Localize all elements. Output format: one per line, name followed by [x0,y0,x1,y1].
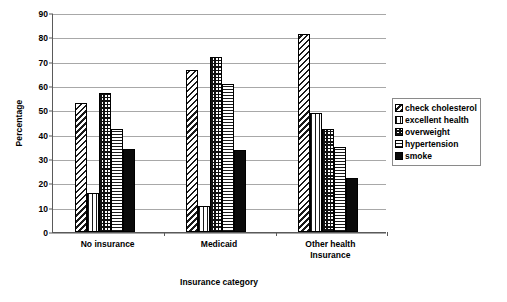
y-tick-label: 90 [39,10,48,19]
bar [75,103,87,232]
bar [99,93,111,232]
legend-item: smoke [395,150,477,162]
x-axis-title: Insurance category [52,277,386,287]
bar [234,150,246,232]
legend-label: smoke [405,152,432,161]
legend-item: overweight [395,126,477,138]
bar-group [164,14,275,232]
y-tick-label: 60 [39,83,48,92]
x-tick-mark [164,232,165,236]
y-tick-label: 50 [39,107,48,116]
bar [210,57,222,232]
bar [186,70,198,232]
bar [334,147,346,232]
bar-chart: Percentage 0102030405060708090 No insura… [0,0,507,302]
bar [310,113,322,232]
legend-swatch-icon [395,104,403,112]
bar-group-bars [276,14,409,232]
bar-group [276,14,387,232]
bar-group [53,14,164,232]
legend-swatch-icon [395,116,403,124]
legend-item: excellent health [395,114,477,126]
y-tick-label: 40 [39,131,48,140]
bar [123,149,135,232]
y-tick-label: 20 [39,180,48,189]
y-tick-label: 30 [39,156,48,165]
legend-swatch-icon [395,152,403,160]
gridline [53,233,386,234]
bar [111,129,123,232]
legend-label: excellent health [405,116,469,125]
bar [346,178,358,232]
y-tick-mark [49,233,53,234]
x-tick-mark [387,232,388,236]
x-axis-category-label: No insurance [52,239,163,250]
bar [322,129,334,232]
y-tick-label: 10 [39,204,48,213]
legend-swatch-icon [395,128,403,136]
bar [222,84,234,232]
legend-label: hypertension [405,140,458,149]
y-axis-title: Percentage [14,68,24,178]
legend-label: check cholesterol [405,104,477,113]
plot-area: 0102030405060708090 [52,14,386,233]
legend-swatch-icon [395,140,403,148]
legend-item: check cholesterol [395,102,477,114]
legend-label: overweight [405,128,450,137]
bar [298,34,310,232]
x-axis-category-label: Other health Insurance [275,239,386,261]
y-tick-label: 0 [43,229,48,238]
y-tick-label: 80 [39,34,48,43]
bar [87,193,99,232]
legend-item: hypertension [395,138,477,150]
legend: check cholesterolexcellent healthoverwei… [392,98,481,166]
bar-groups [53,14,386,232]
x-tick-mark [276,232,277,236]
y-tick-label: 70 [39,58,48,67]
x-axis-category-label: Medicaid [163,239,274,250]
bar [198,206,210,232]
